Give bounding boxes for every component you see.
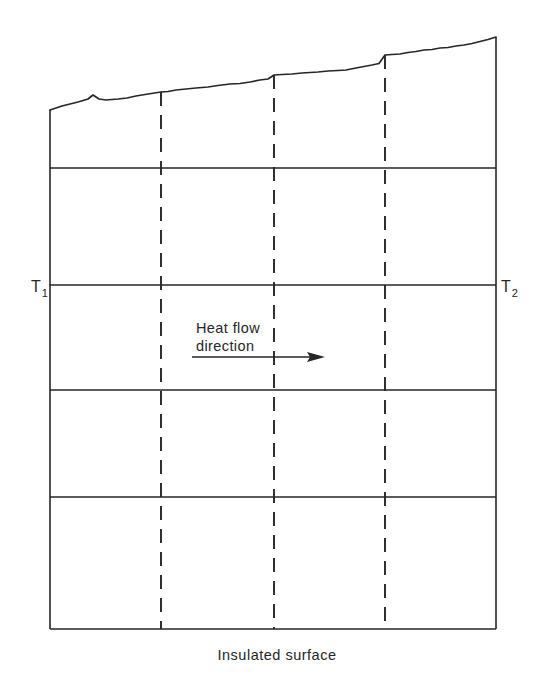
irregular-top-surface [50,37,496,110]
insulated-surface-caption: Insulated surface [218,647,337,663]
temperature-label-right-text: T [501,278,511,295]
heat-flow-label-line1: Heat flow [196,320,260,336]
temperature-label-left-subscript: 1 [42,287,48,299]
temperature-label-left-text: T [31,278,41,295]
diagram-canvas: T1 T2 Heat flow direction Insulated surf… [0,0,541,689]
temperature-label-right-subscript: 2 [512,287,518,299]
temperature-label-left: T1 [31,278,48,299]
temperature-label-right: T2 [501,278,518,299]
heat-flow-label-line2: direction [196,338,254,354]
heat-flow-diagram: T1 T2 Heat flow direction Insulated surf… [0,0,541,689]
